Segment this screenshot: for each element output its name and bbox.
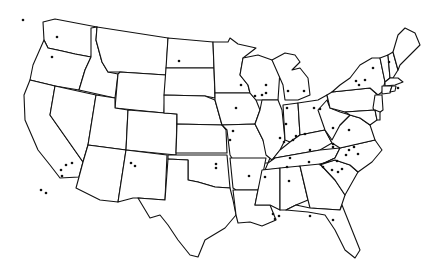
location-dot	[274, 218, 277, 221]
state-boundaries	[24, 19, 420, 258]
location-dot	[336, 160, 339, 163]
state-nd	[166, 38, 214, 68]
location-dot	[248, 175, 251, 178]
location-dot	[397, 87, 400, 90]
state-fl	[286, 205, 360, 258]
location-dot	[278, 215, 281, 218]
location-dot	[65, 164, 68, 167]
location-dot	[364, 79, 367, 82]
state-co	[126, 110, 177, 155]
location-dot	[285, 123, 288, 126]
location-dot	[295, 135, 298, 138]
state-nm	[118, 150, 167, 202]
state-ia	[215, 93, 260, 125]
state-ny	[332, 58, 385, 95]
location-dot	[357, 153, 360, 156]
location-dot	[353, 146, 356, 149]
location-dot	[313, 107, 316, 110]
location-dot	[240, 84, 243, 87]
location-dot	[51, 56, 54, 59]
location-dot	[288, 180, 291, 183]
location-dot	[309, 149, 312, 152]
location-dot	[309, 215, 312, 218]
location-dot	[215, 167, 218, 170]
location-dot	[331, 169, 334, 172]
location-dot	[358, 84, 361, 87]
location-dot	[372, 67, 375, 70]
location-dot	[178, 60, 181, 63]
location-dot	[265, 92, 268, 95]
state-wy	[115, 72, 166, 113]
location-dot	[289, 157, 292, 160]
us-map	[0, 0, 429, 273]
state-me	[393, 28, 420, 70]
location-dot	[283, 141, 286, 144]
location-dot	[40, 189, 43, 192]
location-dot	[272, 213, 275, 216]
location-dot	[322, 166, 325, 169]
location-dot	[264, 176, 267, 179]
location-dot	[71, 162, 74, 165]
location-dot	[337, 171, 340, 174]
location-dot	[265, 84, 268, 87]
location-dot	[388, 61, 391, 64]
location-dot	[56, 36, 59, 39]
location-dot	[341, 168, 344, 171]
location-dot	[130, 162, 133, 165]
state-mt	[96, 27, 168, 75]
location-dot	[286, 107, 289, 110]
location-dot	[345, 154, 348, 157]
location-dot	[215, 163, 218, 166]
location-dot	[332, 143, 335, 146]
location-dot	[279, 137, 282, 140]
state-sd	[164, 68, 215, 98]
location-dot	[286, 166, 289, 169]
location-dot	[348, 149, 351, 152]
state-ma	[385, 78, 403, 86]
location-dot	[355, 80, 358, 83]
location-dot	[134, 165, 137, 168]
location-dot	[261, 94, 264, 97]
location-dot	[332, 127, 335, 130]
location-dot	[229, 139, 232, 142]
location-dot	[308, 161, 311, 164]
location-dot	[254, 95, 257, 98]
location-dot	[60, 169, 63, 172]
location-dot	[45, 192, 48, 195]
location-dot	[61, 175, 64, 178]
location-dot	[332, 146, 335, 149]
location-dot	[332, 219, 335, 222]
location-dot	[22, 19, 25, 22]
location-dot	[235, 107, 238, 110]
location-dot	[303, 90, 306, 93]
location-dot	[287, 90, 290, 93]
location-dot	[319, 108, 322, 111]
state-ks	[176, 124, 227, 153]
location-dot	[304, 133, 307, 136]
location-dot	[292, 139, 295, 142]
location-dot	[348, 129, 351, 132]
location-dot	[232, 130, 235, 133]
